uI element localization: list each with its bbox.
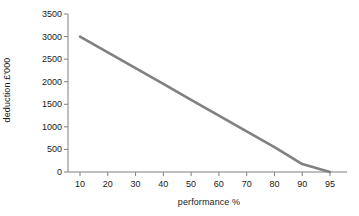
x-axis-tick-label: 20 <box>103 180 113 189</box>
x-axis-tick-labels: 10203040506070809095 <box>0 0 359 216</box>
x-axis-tick-label: 10 <box>75 180 85 189</box>
x-axis-tick-label: 60 <box>214 180 224 189</box>
x-axis-tick-label: 40 <box>158 180 168 189</box>
x-axis-tick-label: 95 <box>325 180 335 189</box>
x-axis-tick-label: 90 <box>297 180 307 189</box>
x-axis-title: performance % <box>68 197 350 207</box>
x-axis-tick-label: 80 <box>269 180 279 189</box>
x-axis-tick-label: 50 <box>186 180 196 189</box>
chart-container: deduction £'000 050010001500200025003000… <box>0 0 359 216</box>
x-axis-tick-label: 70 <box>242 180 252 189</box>
x-axis-tick-label: 30 <box>131 180 141 189</box>
